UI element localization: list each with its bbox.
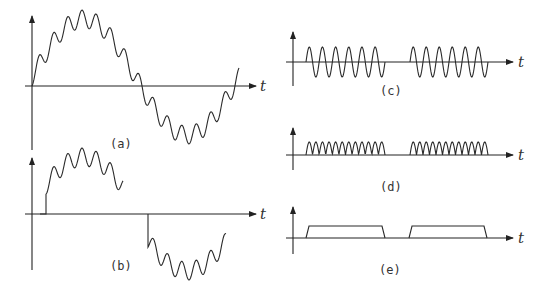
panel-label-c: (c) xyxy=(380,84,402,98)
axis-label-d: t xyxy=(518,146,525,164)
axis-label-e: t xyxy=(518,229,525,247)
signal-d xyxy=(306,142,488,155)
axis-label-a: t xyxy=(260,77,267,95)
panel-label-a: (a) xyxy=(110,137,132,151)
axis-label-c: t xyxy=(518,53,525,71)
axis-label-b: t xyxy=(260,205,267,223)
panel-label-d: (d) xyxy=(380,180,402,194)
panel-label-b: (b) xyxy=(110,259,132,273)
panel-d: t (d) xyxy=(286,128,525,194)
waveform-diagram: t (a) t (b) t (c) t (d) t (e) xyxy=(0,0,545,292)
panel-e: t (e) xyxy=(286,207,525,277)
panel-c: t (c) xyxy=(286,32,525,98)
panel-a: t (a) xyxy=(25,10,267,151)
signal-e xyxy=(306,226,487,238)
panel-b: t (b) xyxy=(25,148,267,280)
signal-a xyxy=(32,10,239,144)
panel-label-e: (e) xyxy=(379,263,401,277)
